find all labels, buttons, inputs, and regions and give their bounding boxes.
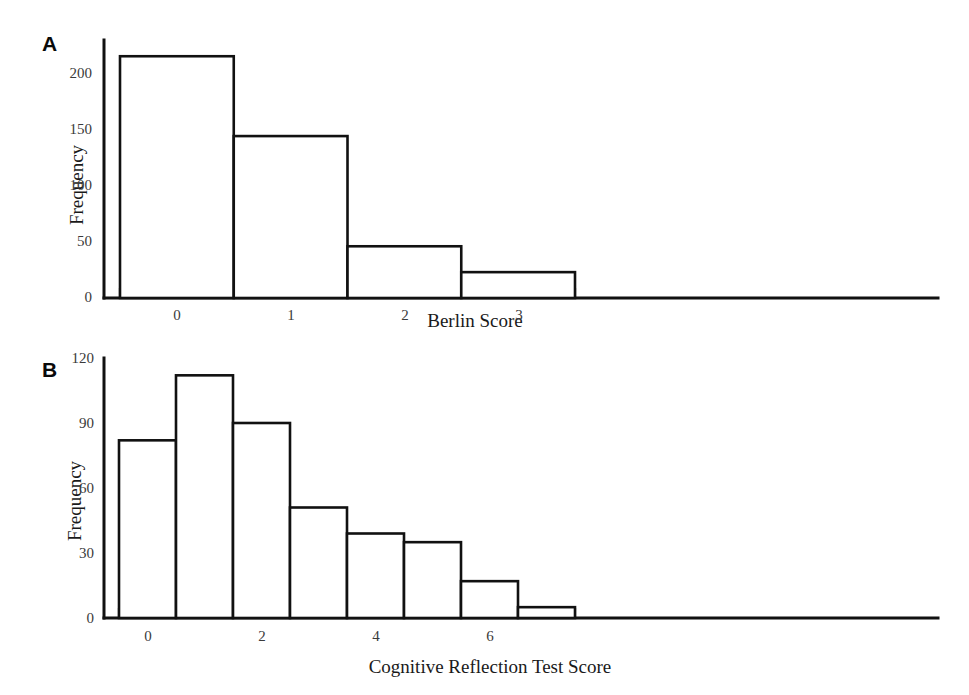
histogram-bar (176, 375, 233, 618)
histogram-bar (518, 607, 575, 618)
histogram-bar (404, 542, 461, 618)
figure-container: A Frequency Berlin Score 200 150 100 50 … (0, 0, 969, 695)
histogram-bar (347, 534, 404, 619)
panel-b: B Frequency Cognitive Reflection Test Sc… (0, 340, 969, 695)
histogram-bar (290, 508, 347, 619)
panel-b-bars (119, 375, 575, 618)
histogram-bar (348, 246, 462, 298)
histogram-bar (461, 272, 575, 298)
histogram-bar (119, 440, 176, 618)
panel-a-plot (0, 0, 969, 348)
histogram-bar (461, 581, 518, 618)
panel-a: A Frequency Berlin Score 200 150 100 50 … (0, 0, 969, 348)
panel-a-bars (120, 56, 575, 298)
histogram-bar (233, 423, 290, 618)
panel-b-plot (0, 340, 969, 695)
histogram-bar (120, 56, 234, 298)
histogram-bar (234, 136, 348, 298)
